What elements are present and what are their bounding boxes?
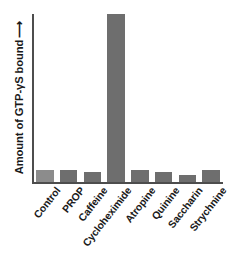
bar[interactable]	[202, 170, 220, 182]
bar[interactable]	[36, 170, 54, 182]
bar-slot	[107, 14, 125, 182]
x-axis-tick-labels: ControlPROPCaffeineCycloheximideAtropine…	[33, 185, 223, 265]
bar[interactable]	[179, 175, 197, 182]
x-axis-line	[32, 182, 223, 184]
bar[interactable]	[107, 14, 125, 182]
bar[interactable]	[155, 172, 173, 182]
y-axis-label-text: Amount of GTP-γS bound⟶	[13, 22, 25, 175]
bar-slot	[60, 14, 78, 182]
bar-slot	[202, 14, 220, 182]
bar-slot	[155, 14, 173, 182]
y-axis-arrow-icon: ⟶	[13, 22, 25, 38]
bar-slot	[84, 14, 102, 182]
bar-slot	[36, 14, 54, 182]
bar[interactable]	[84, 172, 102, 182]
plot-area	[33, 14, 223, 182]
bar[interactable]	[131, 170, 149, 182]
bar-chart-figure: Amount of GTP-γS bound⟶ ControlPROPCaffe…	[0, 0, 228, 267]
bar[interactable]	[60, 170, 78, 182]
bar-slot	[179, 14, 197, 182]
y-axis-label-string: Amount of GTP-γS bound	[13, 40, 25, 175]
bar-slot	[131, 14, 149, 182]
y-axis-label: Amount of GTP-γS bound⟶	[8, 14, 30, 182]
